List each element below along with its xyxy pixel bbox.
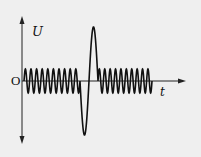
x-axis-label: t bbox=[160, 86, 165, 98]
origin-label: O bbox=[11, 74, 20, 87]
y-axis-label: U bbox=[32, 25, 43, 38]
waveform-plot bbox=[0, 0, 201, 157]
y-axis-arrow-up-icon bbox=[20, 16, 25, 24]
voltage-time-diagram: U O t bbox=[0, 0, 201, 157]
y-axis-arrow-down-icon bbox=[20, 136, 25, 144]
x-axis-arrow-icon bbox=[178, 79, 186, 84]
